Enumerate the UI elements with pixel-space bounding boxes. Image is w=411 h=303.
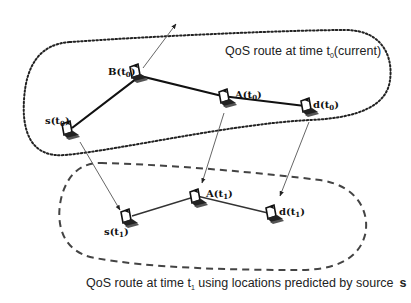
- arrow-a-move: [202, 113, 224, 183]
- label-d-t0: d(t0): [313, 99, 339, 112]
- arrow-s-move: [80, 142, 120, 210]
- predicted-route-caption: QoS route at time t1 using locations pre…: [86, 276, 407, 291]
- label-d-t1: d(t1): [279, 206, 305, 219]
- predicted-route-region: [59, 163, 366, 270]
- current-route-caption: QoS route at time t0(current): [225, 44, 381, 59]
- label-s-t1: s(t1): [104, 226, 129, 239]
- route-t0-links: [72, 76, 305, 128]
- qos-route-prediction-diagram: s(t0) B(t0) A(t0) d(t0) s(t1) A(t1) d(t1…: [0, 0, 411, 303]
- arrow-b-out: [143, 24, 176, 68]
- arrow-d-move: [280, 122, 309, 196]
